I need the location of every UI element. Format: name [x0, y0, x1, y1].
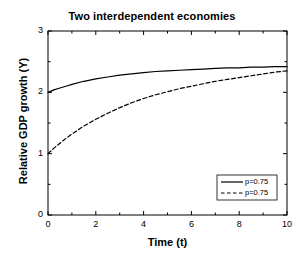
x-tick-label: 6 [181, 219, 201, 229]
y-tick-label: 3 [29, 25, 43, 35]
x-tick-label: 8 [229, 219, 249, 229]
y-tick-label: 2 [29, 86, 43, 96]
legend-item-label: p=0.75 [245, 177, 268, 186]
y-tick-label: 1 [29, 148, 43, 158]
x-tick-label: 0 [38, 219, 58, 229]
chart-figure: Two interdependent economies Relative GD… [0, 0, 304, 261]
series-lines [48, 67, 287, 154]
legend-item-label: p=0.75 [245, 188, 268, 197]
x-axis-label: Time (t) [48, 236, 287, 248]
y-tick-label: 0 [29, 209, 43, 219]
x-tick-label: 10 [277, 219, 297, 229]
y-axis-label: Relative GDP growth (Y) [17, 31, 29, 211]
x-tick-label: 4 [134, 219, 154, 229]
x-tick-label: 2 [86, 219, 106, 229]
